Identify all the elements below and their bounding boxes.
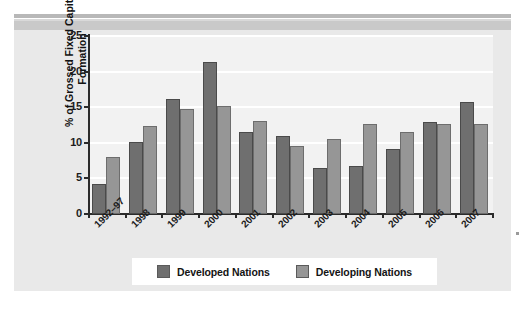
x-tick-mark — [161, 213, 163, 218]
bar — [129, 142, 143, 214]
y-tick-mark — [84, 35, 90, 37]
scan-speck — [516, 232, 519, 235]
y-tick-label: 10 — [52, 136, 82, 148]
gridline — [89, 35, 493, 37]
bar — [349, 166, 363, 214]
x-tick-mark — [419, 213, 421, 218]
bar — [180, 109, 194, 214]
bar — [203, 62, 217, 214]
bar — [423, 122, 437, 214]
y-tick-mark — [84, 71, 90, 73]
bar — [276, 136, 290, 214]
bar — [474, 124, 488, 214]
y-tick-mark — [84, 106, 90, 108]
x-tick-mark — [382, 213, 384, 218]
x-tick-mark — [455, 213, 457, 218]
x-tick-mark — [198, 213, 200, 218]
y-tick-label: 5 — [52, 171, 82, 183]
bar — [166, 99, 180, 214]
y-tick-label: 15 — [52, 100, 82, 112]
y-tick-mark — [84, 177, 90, 179]
legend-entry: Developed Nations — [157, 265, 270, 278]
x-tick-mark — [88, 213, 90, 218]
bar — [400, 132, 414, 214]
bar — [313, 168, 327, 214]
x-tick-mark — [308, 213, 310, 218]
y-tick-label: 0 — [52, 207, 82, 219]
chart-legend: Developed NationsDeveloping Nations — [132, 258, 437, 285]
x-tick-mark — [125, 213, 127, 218]
x-tick-mark — [345, 213, 347, 218]
bar — [239, 132, 253, 214]
figure: % of Grossed Fixed Capital Formation 051… — [0, 0, 525, 309]
y-axis-line — [88, 34, 90, 215]
bar — [143, 126, 157, 214]
bar — [437, 124, 451, 214]
x-tick-mark — [272, 213, 274, 218]
bar — [290, 146, 304, 214]
legend-label: Developed Nations — [177, 266, 270, 278]
legend-label: Developing Nations — [316, 266, 412, 278]
legend-entry: Developing Nations — [296, 265, 412, 278]
bar — [327, 139, 341, 214]
x-tick-mark — [235, 213, 237, 218]
bar — [217, 106, 231, 214]
gridline — [89, 71, 493, 73]
gridline — [89, 106, 493, 108]
bar — [253, 121, 267, 214]
y-tick-label: 20 — [52, 65, 82, 77]
bar — [363, 124, 377, 214]
y-tick-mark — [84, 142, 90, 144]
bar — [386, 149, 400, 214]
legend-swatch-icon — [296, 265, 309, 278]
y-tick-label: 25 — [52, 29, 82, 41]
legend-swatch-icon — [157, 265, 170, 278]
x-tick-mark — [492, 213, 494, 218]
bar — [460, 102, 474, 214]
